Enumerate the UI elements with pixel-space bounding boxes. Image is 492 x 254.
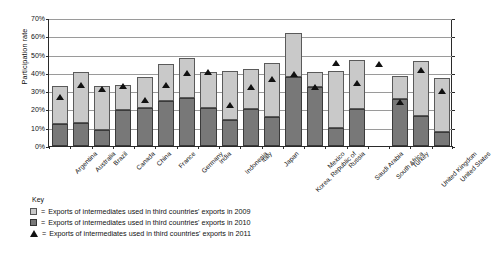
bar-segment-2010[interactable] [200,108,216,146]
bar-segment-2010[interactable] [434,132,450,146]
bar-series-group [49,19,452,146]
bar-segment-2010[interactable] [52,124,68,146]
bar-segment-2009[interactable] [73,72,89,123]
x-tick-mark [155,146,156,149]
bar-group[interactable] [134,19,155,146]
bar-segment-2010[interactable] [73,123,89,146]
stacked-bar[interactable] [285,33,301,146]
x-tick-mark [92,146,93,149]
bar-segment-2010[interactable] [328,128,344,146]
bar-group[interactable] [92,19,113,146]
bar-segment-2010[interactable] [158,101,174,146]
legend-entry: =Exports of intermediates used in third … [30,217,450,228]
marker-2011[interactable] [77,82,85,88]
bar-group[interactable] [347,19,368,146]
bar-group[interactable] [198,19,219,146]
x-axis-tick-labels: ArgentinaAustraliaBrazilCanadaChinaFranc… [48,150,452,198]
legend-equals-sign: = [41,207,45,216]
y-tick-label-0: 0% [19,143,45,150]
x-tick-mark [389,146,390,149]
legend-equals-sign: = [41,218,45,227]
bar-segment-2010[interactable] [179,98,195,146]
legend-entry: =Exports of intermediates used in third … [30,206,450,217]
x-tick-mark [262,146,263,149]
bar-segment-2010[interactable] [115,110,131,146]
marker-2011[interactable] [247,84,255,90]
bar-segment-2009[interactable] [392,76,408,100]
bar-group[interactable] [325,19,346,146]
marker-2011[interactable] [204,69,212,75]
stacked-bar[interactable] [137,77,153,146]
stacked-bar[interactable] [413,61,429,146]
stacked-bar[interactable] [115,85,131,146]
bar-segment-2009[interactable] [52,86,68,124]
bar-segment-2009[interactable] [200,72,216,108]
x-tick-mark [240,146,241,149]
bar-segment-2010[interactable] [222,120,238,146]
marker-2011[interactable] [183,70,191,76]
stacked-bar[interactable] [200,72,216,146]
marker-2011[interactable] [417,67,425,73]
bar-group[interactable] [262,19,283,146]
bar-segment-2009[interactable] [222,71,238,120]
stacked-bar[interactable] [392,76,408,146]
bar-group[interactable] [432,19,453,146]
bar-group[interactable] [304,19,325,146]
bar-segment-2010[interactable] [264,117,280,146]
stacked-bar[interactable] [243,69,259,146]
stacked-bar[interactable] [222,71,238,146]
bar-group[interactable] [70,19,91,146]
bar-segment-2010[interactable] [285,77,301,146]
bar-group[interactable] [155,19,176,146]
marker-2011[interactable] [226,102,234,108]
bar-group[interactable] [283,19,304,146]
marker-2011[interactable] [290,71,298,77]
marker-2011[interactable] [162,82,170,88]
stacked-bar[interactable] [328,71,344,146]
stacked-bar[interactable] [94,86,110,146]
bar-segment-2010[interactable] [307,87,323,146]
bar-segment-2010[interactable] [392,99,408,146]
x-tick-mark [432,146,433,149]
marker-2011[interactable] [438,88,446,94]
bar-group[interactable] [389,19,410,146]
x-tick-label-france: France [177,150,196,169]
bar-segment-2010[interactable] [349,109,365,146]
bar-segment-2009[interactable] [179,58,195,98]
marker-2011[interactable] [375,61,383,67]
marker-2011[interactable] [56,94,64,100]
bar-segment-2009[interactable] [328,71,344,128]
x-tick-mark [452,146,453,149]
stacked-bar[interactable] [349,60,365,146]
x-tick-mark [283,146,284,149]
bar-segment-2010[interactable] [137,108,153,146]
marker-2011[interactable] [332,60,340,66]
bar-segment-2010[interactable] [413,116,429,146]
bar-group[interactable] [49,19,70,146]
x-tick-mark [325,146,326,149]
bar-group[interactable] [219,19,240,146]
x-tick-mark [49,146,50,149]
bar-group[interactable] [410,19,431,146]
marker-2011[interactable] [268,76,276,82]
bar-segment-2009[interactable] [434,78,450,132]
stacked-bar[interactable] [158,64,174,146]
bar-segment-2010[interactable] [243,109,259,146]
bar-group[interactable] [368,19,389,146]
marker-2011[interactable] [119,83,127,89]
marker-2011[interactable] [311,84,319,90]
marker-2011[interactable] [353,80,361,86]
x-tick-mark [177,146,178,149]
bar-segment-2010[interactable] [94,130,110,146]
x-tick-mark [198,146,199,149]
bar-group[interactable] [113,19,134,146]
marker-2011[interactable] [141,97,149,103]
bar-group[interactable] [240,19,261,146]
marker-2011[interactable] [98,86,106,92]
legend-entry-label: Exports of intermediates used in third c… [48,218,250,227]
bar-group[interactable] [177,19,198,146]
plot-area [48,19,452,147]
bar-segment-2009[interactable] [264,63,280,117]
marker-2011[interactable] [396,99,404,105]
